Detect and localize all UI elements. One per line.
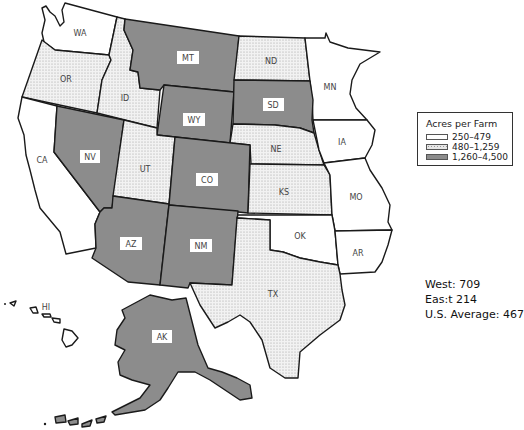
state-label-ca: CA [36, 156, 48, 165]
state-az[interactable]: AZ [92, 196, 169, 285]
legend-item-mid: 480–1,259 [426, 142, 512, 152]
state-label-ia: IA [338, 138, 346, 147]
state-label-nd: ND [265, 57, 277, 66]
state-label-sd: SD [267, 101, 278, 110]
state-nm[interactable]: NM [160, 205, 238, 288]
state-label-mt: MT [182, 54, 194, 63]
state-label-id: ID [121, 94, 130, 103]
state-wy[interactable]: WY [157, 85, 234, 143]
state-wa[interactable]: WA [42, 3, 117, 55]
legend-swatch-low [426, 134, 448, 140]
state-mo[interactable]: MO [324, 158, 392, 231]
legend-title: Acres per Farm [426, 118, 512, 129]
state-co[interactable]: CO [169, 137, 250, 213]
stat-west: West: 709 [425, 277, 524, 292]
state-hi[interactable]: HI [4, 301, 78, 347]
state-label-or: OR [60, 75, 72, 84]
stat-east: Eas:t 214 [425, 292, 524, 307]
state-label-mn: MN [324, 83, 337, 92]
state-ar[interactable]: AR [335, 230, 392, 274]
state-label-ok: OK [294, 232, 306, 241]
state-label-wy: WY [188, 116, 201, 125]
state-label-ak: AK [157, 333, 168, 342]
state-label-az: AZ [126, 240, 137, 249]
legend-item-low: 250–479 [426, 132, 512, 142]
state-mt[interactable]: MT [124, 19, 239, 92]
state-label-ut: UT [140, 165, 151, 174]
legend-label-low: 250–479 [452, 132, 491, 142]
state-label-ks: KS [279, 188, 289, 197]
state-label-tx: TX [267, 290, 279, 299]
state-label-co: CO [201, 176, 213, 185]
stat-us-average: U.S. Average: 467 [425, 307, 524, 322]
state-label-nm: NM [195, 242, 208, 251]
state-ks[interactable]: KS [248, 164, 332, 215]
legend-swatch-high [426, 154, 448, 160]
state-label-mo: MO [349, 193, 362, 202]
state-label-ne: NE [270, 145, 281, 154]
state-nd[interactable]: ND [234, 36, 310, 81]
state-mn[interactable]: MN [305, 33, 380, 120]
summary-stats: West: 709 Eas:t 214 U.S. Average: 467 [425, 277, 524, 322]
legend-label-mid: 480–1,259 [452, 142, 499, 152]
state-label-nv: NV [84, 153, 96, 162]
legend-label-high: 1,260–4,500 [452, 152, 508, 162]
state-label-ar: AR [352, 249, 363, 258]
state-ia[interactable]: IA [313, 120, 375, 163]
legend-item-high: 1,260–4,500 [426, 152, 512, 162]
state-label-wa: WA [74, 29, 87, 38]
legend-swatch-mid [426, 144, 448, 150]
state-label-hi: HI [42, 303, 50, 312]
legend: Acres per Farm 250–479 480–1,259 1,260–4… [417, 112, 513, 166]
